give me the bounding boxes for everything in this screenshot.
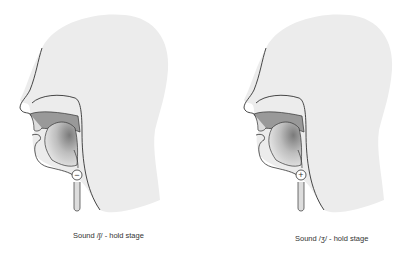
diagram-panel-sh: − Sound /ʃ/ - hold stage: [0, 0, 205, 256]
voiced-plus-icon: +: [298, 170, 303, 180]
diagram-panel-zh: + Sound /ʒ/ - hold stage: [204, 0, 409, 256]
head-sagittal-section-icon: −: [0, 0, 205, 256]
diagram-caption: Sound /ʃ/ - hold stage: [73, 231, 144, 240]
voiceless-minus-icon: −: [74, 170, 79, 180]
diagram-caption: Sound /ʒ/ - hold stage: [295, 234, 368, 243]
head-sagittal-section-icon: +: [204, 0, 409, 256]
